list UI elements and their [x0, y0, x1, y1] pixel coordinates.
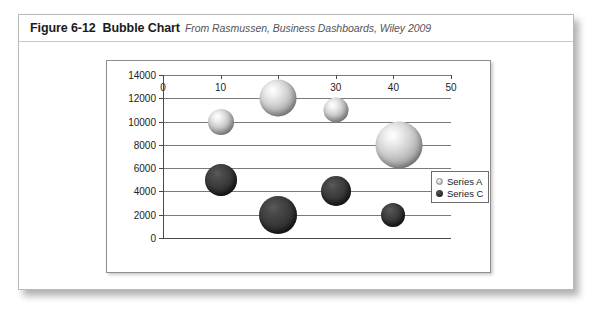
x-axis-tick — [278, 75, 279, 79]
bubble-series-a — [260, 80, 297, 117]
x-axis-line — [163, 238, 451, 239]
plot-area: 02000400060008000100001200014000 0102030… — [163, 75, 451, 238]
x-axis-tick — [336, 75, 337, 79]
chart-frame: 02000400060008000100001200014000 0102030… — [106, 60, 491, 273]
bubble-series-a — [208, 109, 234, 135]
x-axis-tick — [451, 75, 452, 79]
y-axis-tick-label: 2000 — [134, 209, 156, 220]
gridline — [163, 168, 451, 169]
y-axis-tick-label: 6000 — [134, 163, 156, 174]
legend-item-label: Series C — [447, 188, 483, 199]
light-bubble-marker-icon — [436, 178, 443, 185]
y-axis-tick-label: 8000 — [134, 139, 156, 150]
y-axis-tick-label: 4000 — [134, 186, 156, 197]
legend-item[interactable]: Series C — [436, 187, 483, 199]
x-axis-tick — [393, 75, 394, 79]
gridline — [163, 75, 451, 76]
y-axis-line — [163, 75, 164, 238]
y-axis-tick-label: 0 — [150, 233, 156, 244]
legend-item-label: Series A — [447, 176, 482, 187]
x-axis-tick — [221, 75, 222, 79]
figure-source: From Rasmussen, Business Dashboards, Wil… — [185, 22, 431, 34]
x-axis-tick-label: 40 — [388, 82, 399, 93]
figure-number: Figure 6-12 — [30, 21, 96, 35]
bubble-series-c — [381, 203, 405, 227]
dark-bubble-marker-icon — [436, 190, 443, 197]
gridline — [163, 191, 451, 192]
gridline — [163, 215, 451, 216]
x-axis-tick-label: 50 — [445, 82, 456, 93]
figure-card: Figure 6-12 Bubble Chart From Rasmussen,… — [18, 14, 574, 290]
figure-caption: Figure 6-12 Bubble Chart From Rasmussen,… — [19, 15, 573, 42]
bubble-series-c — [205, 164, 237, 196]
bubble-series-a — [376, 121, 423, 168]
chart-legend: Series ASeries C — [431, 171, 489, 203]
figure-title: Bubble Chart — [103, 21, 180, 35]
y-axis-tick-label: 14000 — [128, 70, 156, 81]
legend-item[interactable]: Series A — [436, 175, 483, 187]
x-axis-tick-label: 30 — [330, 82, 341, 93]
x-axis-tick-label: 10 — [215, 82, 226, 93]
gridline — [163, 98, 451, 99]
bubble-series-a — [323, 97, 348, 122]
y-axis-tick-label: 10000 — [128, 116, 156, 127]
bubble-series-c — [321, 176, 351, 206]
y-axis-tick-label: 12000 — [128, 93, 156, 104]
bubble-series-c — [259, 196, 297, 234]
